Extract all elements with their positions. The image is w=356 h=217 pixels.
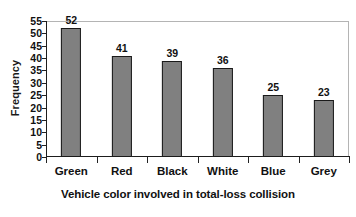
y-axis-tick-labels: 5550454035302520151050 — [22, 15, 42, 163]
bar-value-label: 25 — [267, 82, 279, 93]
y-axis-title-text: Frequency — [9, 60, 21, 117]
x-axis-tick-mark — [248, 157, 249, 163]
bar-value-label: 52 — [65, 15, 77, 26]
y-axis-tick-label: 25 — [22, 90, 42, 100]
x-axis-tick-mark — [299, 157, 300, 163]
x-axis-tick-label: White — [207, 164, 238, 178]
y-axis-tick-label: 10 — [22, 127, 42, 137]
y-axis-tick-label: 5 — [22, 140, 42, 150]
x-axis-tick-label: Black — [157, 164, 188, 178]
bars-layer: 524139362523 — [46, 21, 349, 157]
x-axis-tick-label: Blue — [261, 164, 286, 178]
y-axis-tick-label: 35 — [22, 65, 42, 75]
x-axis-tick-label: Red — [111, 164, 133, 178]
bar-value-label: 36 — [217, 55, 229, 66]
y-axis-tick-label: 15 — [22, 115, 42, 125]
x-axis-tick-label: Green — [55, 164, 88, 178]
bar-blue — [263, 95, 283, 157]
bar-slot: 52 — [46, 21, 97, 157]
bar-grey — [314, 100, 334, 157]
bar-slot: 36 — [198, 21, 249, 157]
y-axis-tick-label: 0 — [22, 152, 42, 162]
bar-red — [112, 56, 132, 157]
y-axis-tick-label: 30 — [22, 78, 42, 88]
x-axis-tick-label: Grey — [311, 164, 337, 178]
x-axis-tick-marks — [46, 157, 350, 163]
y-axis-tick-label: 40 — [22, 53, 42, 63]
bar-value-label: 23 — [318, 87, 330, 98]
bar-value-label: 39 — [166, 48, 178, 59]
x-axis-tick-mark — [97, 157, 98, 163]
bar-value-label: 41 — [116, 43, 128, 54]
x-axis-tick-mark — [198, 157, 199, 163]
bar-white — [213, 68, 233, 157]
bar-slot: 41 — [97, 21, 148, 157]
bar-chart-figure: Frequency 5550454035302520151050 5241393… — [0, 0, 356, 217]
y-axis-tick-label: 55 — [22, 16, 42, 26]
x-axis-tick-mark — [46, 157, 47, 163]
y-axis-tick-label: 50 — [22, 28, 42, 38]
y-axis-tick-label: 20 — [22, 103, 42, 113]
y-axis-tick-label: 45 — [22, 41, 42, 51]
bar-slot: 25 — [248, 21, 299, 157]
bar-slot: 23 — [299, 21, 350, 157]
bar-slot: 39 — [147, 21, 198, 157]
bar-black — [162, 61, 182, 157]
x-axis-tick-mark — [147, 157, 148, 163]
x-axis-tick-labels: GreenRedBlackWhiteBlueGrey — [46, 164, 349, 180]
bar-green — [61, 28, 81, 157]
x-axis-title: Vehicle color involved in total-loss col… — [0, 188, 356, 200]
x-axis-tick-mark — [349, 157, 350, 163]
